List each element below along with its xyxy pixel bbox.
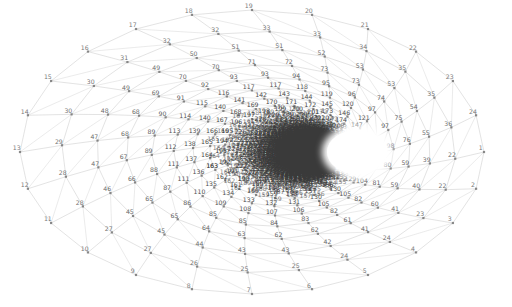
- node-layer: [19, 9, 485, 295]
- graph-canvas: [0, 0, 512, 307]
- edge-layer: [20, 10, 484, 294]
- graph-figure: 1234567891011121314151617181920212223242…: [0, 0, 512, 307]
